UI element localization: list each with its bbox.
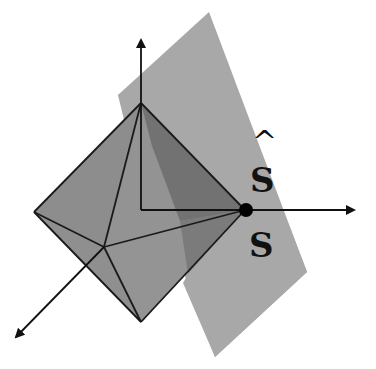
y-axis [16, 247, 104, 337]
label-s-hat-accent: ^ [252, 124, 277, 159]
point-s [239, 203, 253, 217]
octahedron-plane-diagram: ^ S S [0, 0, 376, 369]
label-s: S [249, 225, 274, 265]
label-s-hat: S [250, 160, 275, 200]
